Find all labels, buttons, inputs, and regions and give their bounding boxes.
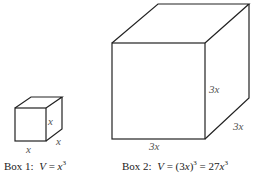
box2-caption: Box 2: V = (3x)3 = 27x3 bbox=[122, 160, 228, 172]
box2-caption-exp1: 3 bbox=[193, 159, 197, 167]
box2-caption-var: V bbox=[157, 160, 164, 172]
box1-caption-var: V bbox=[39, 160, 46, 172]
cube-diagram: x x x 3x 3x 3x bbox=[0, 0, 257, 182]
box2-caption-paren-open: (3 bbox=[176, 160, 185, 172]
box1-depth-label: x bbox=[55, 135, 61, 147]
box1-caption-exp: 3 bbox=[63, 159, 67, 167]
box2-cube bbox=[112, 4, 249, 139]
box2-caption-exp2: 3 bbox=[224, 159, 228, 167]
box1-width-label: x bbox=[25, 143, 31, 155]
box2-caption-prefix: Box 2: bbox=[122, 160, 152, 172]
box1-caption-eq: = bbox=[49, 160, 55, 172]
box1-cube bbox=[15, 97, 62, 141]
box2-height-label: 3x bbox=[208, 83, 220, 95]
box2-depth-label: 3x bbox=[232, 120, 244, 132]
box2-top-face bbox=[112, 4, 249, 43]
box1-caption-prefix: Box 1: bbox=[4, 160, 34, 172]
box2-caption-eq2: = 27 bbox=[200, 160, 220, 172]
box2-caption-eq: = bbox=[167, 160, 173, 172]
box1-caption: Box 1: V = x3 bbox=[4, 160, 66, 172]
box1-top-face bbox=[15, 97, 62, 108]
box2-front-face bbox=[112, 43, 205, 139]
box1-height-label: x bbox=[47, 115, 53, 127]
box2-width-label: 3x bbox=[148, 140, 160, 152]
box1-front-face bbox=[15, 108, 46, 141]
